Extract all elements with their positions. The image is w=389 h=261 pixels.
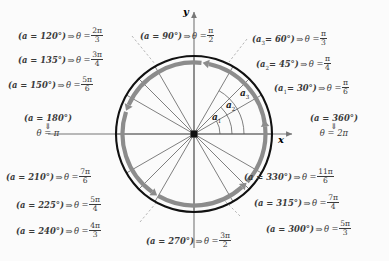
label-210: (a = 210°)⇒θ =7π6 (6, 168, 91, 184)
label-45: (a2= 45°)⇒θ =π4 (256, 55, 331, 71)
label-360: (a = 360°) ⇓ θ = 2π (310, 114, 358, 138)
label-30: (a1= 30°)⇒θ =π6 (274, 79, 349, 95)
radial-line-135 (139, 79, 194, 134)
label-330: (a = 330°)⇒θ =11π6 (244, 168, 334, 184)
radial-line-315 (194, 134, 249, 189)
label-270: (a = 270°)⇒θ =3π2 (146, 232, 231, 248)
label-225: (a = 225°)⇒θ =5π4 (16, 196, 101, 212)
direction-arrowhead-0 (203, 60, 210, 68)
label-315: (a = 315°)⇒θ =7π4 (254, 194, 339, 210)
axis-lines (48, 12, 292, 248)
radial-line-150 (126, 95, 194, 134)
alpha-3-label: a3 (240, 88, 249, 100)
x-axis-label: x (278, 134, 284, 145)
alpha-1-label: a1 (212, 112, 221, 124)
radial-line-210 (126, 134, 194, 173)
unit-circle-figure: y x a1 a2 a3 (a = 120°)⇒θ =2π3 (a = 135°… (0, 0, 389, 261)
label-240: (a = 240°)⇒θ =4π3 (16, 222, 101, 238)
alpha-2-label: a2 (226, 100, 235, 112)
radial-line-225 (139, 134, 194, 189)
label-90: (a = 90°)⇒θ =π2 (140, 27, 215, 43)
label-300: (a = 300°)⇒θ =5π3 (266, 220, 351, 236)
origin-point (191, 131, 198, 138)
radial-line-120 (155, 66, 194, 134)
radial-line-240 (155, 134, 194, 202)
label-60: (a3= 60°)⇒θ =π3 (252, 30, 327, 46)
radial-line-300 (194, 134, 233, 202)
direction-arc-2 (122, 112, 151, 192)
y-axis-label: y (183, 6, 189, 17)
label-120: (a = 120°)⇒θ =2π3 (18, 27, 103, 43)
label-180: (a = 180°) ⇓ θ = π (24, 114, 72, 138)
label-150: (a = 150°)⇒θ =5π6 (8, 76, 93, 92)
direction-arrowhead-4 (261, 120, 270, 127)
label-135: (a = 135°)⇒θ =3π4 (18, 51, 103, 67)
